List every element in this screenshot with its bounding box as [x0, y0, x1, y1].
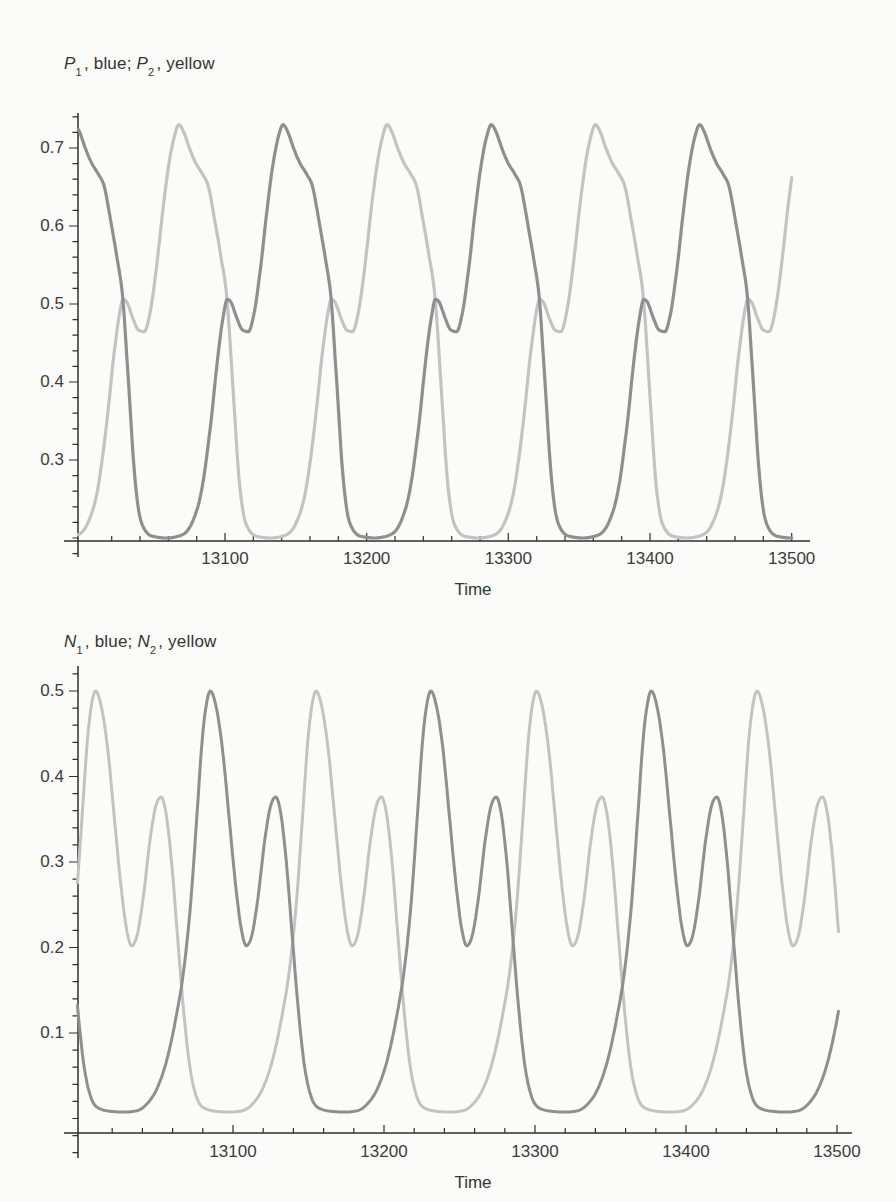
- chart2-x-tick-label: 13500: [792, 1142, 882, 1162]
- chart1-x-tick-label: 13400: [605, 549, 695, 569]
- chart2-x-tick-label: 13300: [490, 1142, 580, 1162]
- chart2-series2-subscript: 2: [150, 644, 157, 656]
- chart1-series1-subscript: 1: [76, 66, 83, 78]
- scanned-figure-page: P1, blue; P2, yellow N1, blue; N2, yello…: [0, 0, 896, 1202]
- chart1-y-tick-label: 0.5: [4, 294, 64, 314]
- chart2-y-tick-label: 0.4: [4, 767, 64, 787]
- chart1-y-tick-label: 0.4: [4, 372, 64, 392]
- chart1-y-tick-label: 0.7: [4, 138, 64, 158]
- chart2-title-mid: , blue;: [85, 632, 138, 651]
- chart1-title-end: , yellow: [156, 54, 214, 73]
- chart2-x-tick-label: 13100: [188, 1142, 278, 1162]
- chart2-y-tick-label: 0.2: [4, 938, 64, 958]
- chart2-title: N1, blue; N2, yellow: [64, 632, 217, 652]
- chart1-curve-P1: [78, 125, 791, 538]
- chart1-x-tick-label: 13300: [463, 549, 553, 569]
- chart2-series1-subscript: 1: [76, 644, 83, 656]
- chart2-xaxis-title: Time: [447, 1173, 499, 1193]
- chart1-title: P1, blue; P2, yellow: [64, 54, 215, 74]
- chart1-tick-marks: [69, 117, 792, 554]
- chart2-title-end: , yellow: [158, 632, 216, 651]
- chart1-title-mid: , blue;: [84, 54, 137, 73]
- chart1-plot: [64, 113, 810, 557]
- chart1-y-tick-label: 0.3: [4, 450, 64, 470]
- chart1-xaxis-title: Time: [447, 580, 499, 600]
- chart2-series2-symbol: N: [137, 632, 150, 651]
- chart1-x-tick-label: 13500: [747, 549, 837, 569]
- chart1-curve-P2: [78, 125, 791, 538]
- chart2-y-tick-label: 0.1: [4, 1023, 64, 1043]
- chart2-y-tick-label: 0.3: [4, 852, 64, 872]
- chart1-series2-subscript: 2: [148, 66, 155, 78]
- chart1-x-tick-label: 13100: [180, 549, 270, 569]
- chart1-series1-symbol: P: [64, 54, 77, 73]
- chart2-tick-marks: [69, 674, 837, 1153]
- chart2-x-tick-label: 13400: [641, 1142, 731, 1162]
- chart2-curve-N1: [78, 691, 839, 1112]
- chart2-y-tick-label: 0.5: [4, 681, 64, 701]
- chart1-x-tick-label: 13200: [322, 549, 412, 569]
- chart2-x-tick-label: 13200: [339, 1142, 429, 1162]
- chart2-plot: [64, 666, 852, 1158]
- dual-line-chart-canvas: [0, 0, 896, 1202]
- chart1-y-tick-label: 0.6: [4, 216, 64, 236]
